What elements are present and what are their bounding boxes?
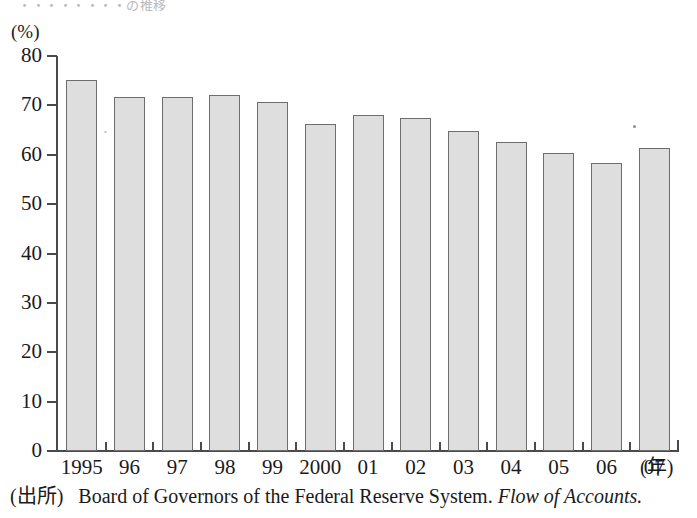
y-axis-tick [47, 104, 57, 106]
bar [305, 124, 336, 451]
source-label: (出所) [10, 485, 63, 507]
scan-artifact-speck [633, 125, 636, 128]
x-axis-tick [343, 442, 345, 451]
y-axis-tick [47, 450, 57, 452]
bar [400, 118, 431, 451]
bar [209, 95, 240, 451]
x-axis-tick [486, 442, 488, 451]
x-axis-tick [439, 442, 441, 451]
bar-chart-plot-area: 01020304050607080 1995969798992000010203… [0, 0, 697, 518]
x-axis-tick [582, 442, 584, 451]
y-axis-tick [47, 302, 57, 304]
y-axis-tick-label: 80 [2, 45, 42, 66]
source-text: Board of Governors of the Federal Reserv… [78, 485, 492, 507]
x-axis-tick [629, 442, 631, 451]
x-axis-tick [105, 442, 107, 451]
y-axis-tick-label: 40 [2, 243, 42, 264]
y-axis-tick [47, 253, 57, 255]
bar [353, 115, 384, 451]
y-axis-tick [47, 154, 57, 156]
x-axis-unit-label: (年) [640, 456, 673, 478]
bar [448, 131, 479, 451]
scan-artifact-speck [104, 131, 107, 133]
y-axis-tick-label: 60 [2, 144, 42, 165]
y-axis-tick-label: 0 [2, 440, 42, 461]
bar [66, 80, 97, 451]
x-axis-tick [295, 442, 297, 451]
y-axis-tick [47, 203, 57, 205]
bar [543, 153, 574, 451]
x-axis-end-tick [677, 440, 679, 452]
y-axis-tick-label: 20 [2, 341, 42, 362]
source-note: (出所) Board of Governors of the Federal R… [10, 484, 642, 508]
bar [591, 163, 622, 451]
y-axis-tick-label: 30 [2, 292, 42, 313]
x-axis-tick [152, 442, 154, 451]
bar [162, 97, 193, 451]
y-axis-tick-label: 50 [2, 193, 42, 214]
y-axis-tick-label: 70 [2, 94, 42, 115]
x-axis-tick [248, 442, 250, 451]
bar [639, 148, 670, 451]
source-publication-title: Flow of Accounts. [498, 485, 643, 507]
bar [496, 142, 527, 451]
y-axis-tick-label: 10 [2, 391, 42, 412]
y-axis-tick [47, 55, 57, 57]
x-axis-tick [534, 442, 536, 451]
y-axis-tick [47, 401, 57, 403]
bar [114, 97, 145, 451]
y-axis-tick [47, 351, 57, 353]
x-axis-tick [391, 442, 393, 451]
bar [257, 102, 288, 451]
x-axis-tick [200, 442, 202, 451]
